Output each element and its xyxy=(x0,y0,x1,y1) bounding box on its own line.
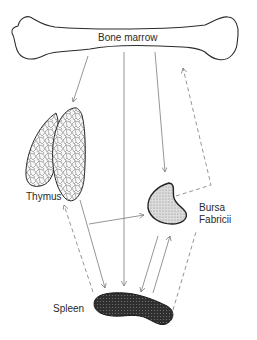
spleen-shape-icon xyxy=(94,293,173,325)
arrow-bonemarrow-to-thymus xyxy=(73,56,88,102)
bone-marrow-label: Bone marrow xyxy=(98,32,157,43)
arrow-thymus-to-bursa xyxy=(89,215,144,224)
arrow-spleen-to-thymus xyxy=(64,205,93,292)
migration-arrows xyxy=(64,52,211,310)
spleen-node xyxy=(94,293,173,325)
arrow-thymus-to-spleen xyxy=(80,200,105,288)
bursa-shape-icon xyxy=(148,183,186,224)
lymphoid-migration-diagram xyxy=(0,0,257,340)
bursa-label-line1: Bursa xyxy=(199,202,225,213)
spleen-label: Spleen xyxy=(53,303,84,314)
bursa-fabricii-node xyxy=(148,183,186,224)
dashed-spleen-bursa-connector xyxy=(173,232,196,310)
thymus-label: Thymus xyxy=(26,191,62,202)
arrow-bonemarrow-to-bursa xyxy=(155,52,165,172)
arrow-bursa-to-bonemarrow xyxy=(176,68,211,196)
bursa-label-line2: Fabricii xyxy=(199,214,231,225)
thymus-node xyxy=(26,108,85,201)
